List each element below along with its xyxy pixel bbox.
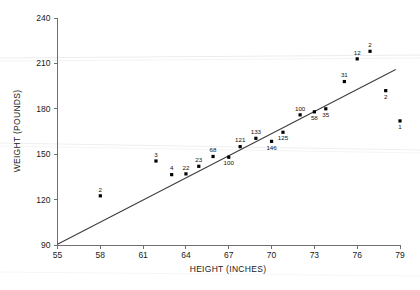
data-points: 23422236810012113314612510058353112221 bbox=[99, 41, 403, 197]
data-point bbox=[239, 145, 242, 148]
y-tick-label: 210 bbox=[36, 58, 50, 68]
axes bbox=[58, 18, 401, 246]
data-point-label: 133 bbox=[251, 128, 262, 135]
y-tick-label: 240 bbox=[36, 13, 50, 23]
data-point-label: 2 bbox=[384, 93, 388, 100]
x-tick-label: 73 bbox=[310, 250, 320, 260]
x-tick-label: 58 bbox=[96, 250, 106, 260]
x-tick-label: 76 bbox=[352, 250, 362, 260]
x-tick-label: 55 bbox=[53, 250, 63, 260]
data-point-label: 68 bbox=[210, 146, 217, 153]
data-point bbox=[368, 50, 371, 53]
y-tick-label: 180 bbox=[36, 104, 50, 114]
data-point-label: 125 bbox=[278, 134, 289, 141]
y-axis-title: WEIGHT (POUNDS) bbox=[12, 90, 22, 173]
x-tick-label: 70 bbox=[267, 250, 277, 260]
data-point-label: 2 bbox=[368, 41, 372, 48]
data-point-label: 2 bbox=[99, 186, 103, 193]
data-point-label: 4 bbox=[170, 164, 174, 171]
data-point bbox=[170, 173, 173, 176]
data-point-label: 22 bbox=[182, 164, 189, 171]
data-point bbox=[384, 89, 387, 92]
x-axis-title: HEIGHT (INCHES) bbox=[190, 264, 267, 274]
data-point bbox=[324, 107, 327, 110]
regression-line bbox=[58, 69, 396, 244]
y-tick-label: 120 bbox=[36, 195, 50, 205]
data-point-label: 100 bbox=[224, 159, 235, 166]
data-point bbox=[343, 80, 346, 83]
data-point bbox=[356, 57, 359, 60]
y-tick-label: 150 bbox=[36, 149, 50, 159]
data-point bbox=[197, 165, 200, 168]
data-point-label: 146 bbox=[266, 144, 277, 151]
data-point bbox=[227, 156, 230, 159]
data-point bbox=[398, 119, 401, 122]
data-point-label: 58 bbox=[311, 114, 318, 121]
fit-line bbox=[58, 69, 396, 244]
data-point bbox=[184, 172, 187, 175]
scatter-chart: 90120150180210240 555861646770737679 234… bbox=[0, 0, 420, 290]
data-point-label: 3 bbox=[154, 151, 158, 158]
y-axis-ticks: 90120150180210240 bbox=[36, 13, 57, 250]
data-point bbox=[254, 137, 257, 140]
x-tick-label: 64 bbox=[181, 250, 191, 260]
data-point bbox=[270, 140, 273, 143]
x-tick-label: 61 bbox=[138, 250, 148, 260]
data-point-label: 31 bbox=[341, 71, 348, 78]
data-point bbox=[281, 131, 284, 134]
x-tick-label: 67 bbox=[224, 250, 234, 260]
chart-canvas: 90120150180210240 555861646770737679 234… bbox=[0, 0, 420, 290]
data-point-label: 100 bbox=[295, 105, 306, 112]
data-point-label: 1 bbox=[398, 123, 402, 130]
x-tick-label: 79 bbox=[395, 250, 405, 260]
data-point-label: 121 bbox=[235, 136, 246, 143]
data-point-label: 23 bbox=[195, 156, 202, 163]
data-point bbox=[299, 113, 302, 116]
data-point bbox=[211, 155, 214, 158]
data-point-label: 35 bbox=[322, 111, 329, 118]
x-axis-ticks: 555861646770737679 bbox=[53, 245, 405, 260]
data-point bbox=[154, 159, 157, 162]
y-tick-label: 90 bbox=[41, 240, 51, 250]
data-point bbox=[313, 110, 316, 113]
data-point bbox=[99, 194, 102, 197]
data-point-label: 12 bbox=[354, 49, 361, 56]
